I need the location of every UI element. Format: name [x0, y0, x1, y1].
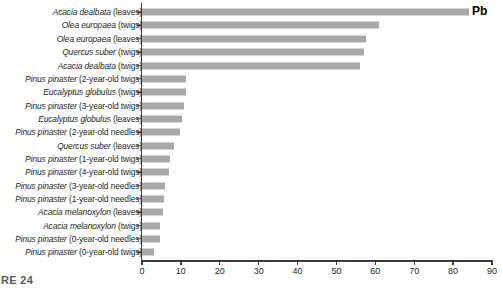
- bar: [142, 22, 379, 29]
- y-axis-line: [141, 3, 143, 261]
- species-name: Acacia melanoxylon: [43, 221, 116, 231]
- species-name: Olea europaea: [57, 34, 111, 44]
- species-name: Acacia dealbata: [53, 7, 111, 17]
- species-name: Eucalyptus globulus: [43, 87, 116, 97]
- species-name: Pinus pinaster: [25, 154, 77, 164]
- species-name: Eucalyptus globulus: [38, 114, 111, 124]
- bar: [142, 62, 360, 69]
- bar-row: Pinus pinaster (0-year-old twigs): [0, 246, 503, 259]
- x-axis-tick: [414, 261, 415, 265]
- bar-category-label: Pinus pinaster (3-year-old needles): [15, 181, 142, 191]
- bar: [142, 142, 174, 149]
- bar-row: Pinus pinaster (4-year-old twigs): [0, 166, 503, 179]
- bar-row: Eucalyptus globulus (leaves): [0, 112, 503, 125]
- bar-chart-plot: Acacia dealbata (leaves)Olea europaea (t…: [0, 0, 503, 288]
- bar-row: Acacia dealbata (leaves): [0, 6, 503, 19]
- x-axis-line: [141, 260, 493, 262]
- plant-part: (0-year-old twigs): [77, 247, 142, 257]
- x-axis-tick: [258, 261, 259, 265]
- x-axis-tick: [452, 261, 453, 265]
- species-name: Quercus suber: [57, 141, 111, 151]
- plant-part: (2-year-old needles): [67, 127, 142, 137]
- x-axis-tick-label: 50: [331, 266, 341, 276]
- bar: [142, 49, 364, 56]
- bar-row: Pinus pinaster (3-year-old twigs): [0, 99, 503, 112]
- bar-row: Pinus pinaster (1-year-old needles): [0, 192, 503, 205]
- species-name: Olea europaea: [62, 20, 116, 30]
- bar-row: Pinus pinaster (1-year-old twigs): [0, 152, 503, 165]
- bar: [142, 196, 164, 203]
- bar-row: Pinus pinaster (2-year-old twigs): [0, 72, 503, 85]
- bar-row: Pinus pinaster (2-year-old needles): [0, 126, 503, 139]
- bar: [142, 236, 160, 243]
- species-name: Pinus pinaster: [15, 127, 67, 137]
- bar: [142, 102, 184, 109]
- x-axis-tick: [375, 261, 376, 265]
- x-axis-tick-label: 20: [215, 266, 225, 276]
- x-axis-tick: [219, 261, 220, 265]
- bar-row: Eucalyptus globulus (twigs): [0, 86, 503, 99]
- bar-row: Pinus pinaster (3-year-old needles): [0, 179, 503, 192]
- bar: [142, 35, 366, 42]
- bar-row: Quercus suber (twigs): [0, 46, 503, 59]
- plant-part: (3-year-old twigs): [77, 101, 142, 111]
- bar-row: Pinus pinaster (0-year-old needles): [0, 232, 503, 245]
- figure-container: Acacia dealbata (leaves)Olea europaea (t…: [0, 0, 503, 288]
- species-name: Pinus pinaster: [25, 247, 77, 257]
- plant-part: (1-year-old needles): [67, 194, 142, 204]
- bar-category-label: Pinus pinaster (0-year-old twigs): [25, 247, 142, 257]
- species-name: Pinus pinaster: [15, 234, 67, 244]
- bar: [142, 129, 180, 136]
- plant-part: (2-year-old twigs): [77, 74, 142, 84]
- bar-category-label: Quercus suber (leaves): [57, 141, 142, 151]
- species-name: Pinus pinaster: [25, 167, 77, 177]
- x-axis-tick-label: 70: [409, 266, 419, 276]
- bar: [142, 209, 163, 216]
- x-axis-tick-label: 80: [448, 266, 458, 276]
- figure-caption: RE 24: [1, 274, 33, 286]
- bar: [142, 222, 160, 229]
- x-axis-tick: [297, 261, 298, 265]
- bar-category-label: Pinus pinaster (0-year-old needles): [15, 234, 142, 244]
- series-label: Pb: [472, 4, 487, 18]
- bar-category-label: Quercus suber (twigs): [62, 47, 142, 57]
- bar: [142, 169, 169, 176]
- x-axis-tick: [180, 261, 181, 265]
- bar-category-label: Pinus pinaster (3-year-old twigs): [25, 101, 142, 111]
- bar-category-label: Eucalyptus globulus (leaves): [38, 114, 142, 124]
- bar-row: Acacia melanoxylon (leaves): [0, 206, 503, 219]
- x-axis-tick: [491, 261, 492, 265]
- bar-category-label: Pinus pinaster (2-year-old needles): [15, 127, 142, 137]
- bar-row: Acacia melanoxylon (twigs): [0, 219, 503, 232]
- bar: [142, 155, 170, 162]
- plant-part: (3-year-old needles): [67, 181, 142, 191]
- bar-row: Acacia dealbata (twigs): [0, 59, 503, 72]
- bar-category-label: Acacia melanoxylon (twigs): [43, 221, 142, 231]
- bar: [142, 9, 469, 16]
- bar-category-label: Acacia dealbata (leaves): [53, 7, 142, 17]
- x-axis-tick-label: 40: [293, 266, 303, 276]
- plant-part: (4-year-old twigs): [77, 167, 142, 177]
- bar: [142, 115, 182, 122]
- plant-part: (1-year-old twigs): [77, 154, 142, 164]
- bar-row: Olea europaea (leaves): [0, 32, 503, 45]
- species-name: Quercus suber: [62, 47, 116, 57]
- species-name: Pinus pinaster: [15, 181, 67, 191]
- x-axis-tick-label: 10: [176, 266, 186, 276]
- bar-category-label: Acacia dealbata (twigs): [58, 61, 142, 71]
- x-axis-tick-label: 30: [254, 266, 264, 276]
- species-name: Acacia melanoxylon: [38, 207, 111, 217]
- bar-category-label: Pinus pinaster (1-year-old twigs): [25, 154, 142, 164]
- bar-category-label: Olea europaea (twigs): [62, 20, 142, 30]
- bar-category-label: Pinus pinaster (4-year-old twigs): [25, 167, 142, 177]
- bar-row: Quercus suber (leaves): [0, 139, 503, 152]
- species-name: Acacia dealbata: [58, 61, 116, 71]
- bar: [142, 182, 165, 189]
- bar: [142, 75, 186, 82]
- bar-category-label: Eucalyptus globulus (twigs): [43, 87, 142, 97]
- species-name: Pinus pinaster: [15, 194, 67, 204]
- bar-category-label: Pinus pinaster (2-year-old twigs): [25, 74, 142, 84]
- species-name: Pinus pinaster: [25, 74, 77, 84]
- bar-category-label: Pinus pinaster (1-year-old needles): [15, 194, 142, 204]
- bar: [142, 249, 154, 256]
